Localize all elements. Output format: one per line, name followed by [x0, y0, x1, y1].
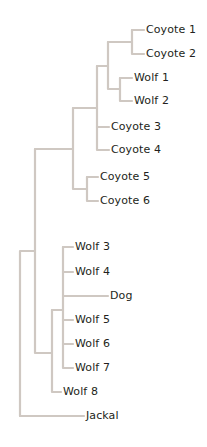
leaf-label-coyote-5: Coyote 5 — [100, 171, 150, 183]
leaf-label-coyote-1: Coyote 1 — [146, 24, 196, 36]
tree-branch — [87, 177, 98, 201]
leaf-label-coyote-2: Coyote 2 — [146, 48, 196, 60]
leaf-label-wolf-5: Wolf 5 — [75, 314, 110, 326]
leaf-label-wolf-8: Wolf 8 — [63, 386, 98, 398]
leaf-label-coyote-3: Coyote 3 — [111, 121, 161, 133]
leaf-label-wolf-6: Wolf 6 — [75, 338, 110, 350]
tree-branch — [73, 108, 87, 189]
tree-branch — [35, 149, 52, 353]
leaf-label-wolf-1: Wolf 1 — [134, 72, 169, 84]
leaf-label-wolf-2: Wolf 2 — [134, 95, 169, 107]
leaf-label-jackal: Jackal — [86, 410, 119, 422]
tree-branch — [52, 310, 61, 392]
leaf-label-wolf-3: Wolf 3 — [75, 241, 110, 253]
leaf-label-wolf-4: Wolf 4 — [75, 266, 110, 278]
tree-branch — [63, 247, 73, 368]
tree-branch — [120, 78, 132, 101]
tree-branch — [132, 30, 144, 54]
tree-branches — [20, 30, 144, 416]
leaf-label-wolf-7: Wolf 7 — [75, 362, 110, 374]
leaf-label-coyote-4: Coyote 4 — [111, 144, 161, 156]
phylogenetic-tree — [0, 0, 207, 447]
leaf-label-coyote-6: Coyote 6 — [100, 195, 150, 207]
leaf-label-dog: Dog — [110, 290, 132, 302]
tree-branch — [108, 42, 120, 89]
tree-branch — [20, 251, 35, 416]
